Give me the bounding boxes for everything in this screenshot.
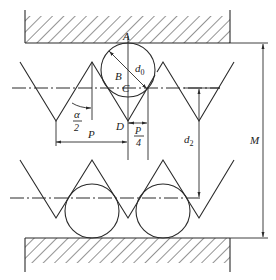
thread-profile-bottom	[20, 160, 234, 218]
label-D: D	[115, 120, 124, 132]
label-d0: d0	[135, 62, 145, 77]
measuring-wire-bottom-right	[136, 184, 190, 238]
three-wire-measurement-diagram: A B C D d0 α 2 P P 4 d2 M	[0, 0, 276, 280]
measuring-wire-bottom-left	[65, 184, 119, 238]
label-M: M	[249, 134, 260, 146]
label-A: A	[122, 30, 130, 42]
label-C: C	[122, 82, 130, 94]
label-alpha-half: α 2	[73, 108, 82, 133]
svg-text:α: α	[74, 108, 80, 120]
label-P: P	[87, 128, 95, 140]
label-P-over-4: P 4	[134, 125, 144, 148]
svg-text:P: P	[134, 125, 141, 136]
lower-anvil	[25, 238, 230, 272]
svg-text:2: 2	[74, 122, 79, 133]
label-d2: d2	[184, 133, 194, 148]
thread-profile-top-right	[157, 62, 234, 121]
label-B: B	[115, 70, 122, 82]
svg-text:4: 4	[136, 137, 141, 148]
